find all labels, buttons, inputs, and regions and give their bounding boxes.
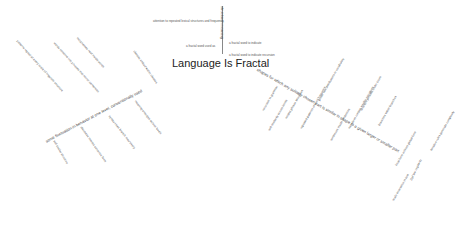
diagram-title: Language Is Fractal xyxy=(172,57,269,69)
left-main-label: some fluctuation in behavior at one leve… xyxy=(45,89,143,144)
left-item: syntax trees branch recursively xyxy=(108,115,136,149)
right-item: branches within branches xyxy=(378,96,398,127)
top-item: attention to repeated lexical structures… xyxy=(153,20,224,23)
top-item: a fractal word to indicate recursion xyxy=(229,54,275,57)
top-item: a fractal word to indicate xyxy=(229,42,262,45)
right-item: recursion in grammar xyxy=(262,85,279,111)
left-item: self similar structure xyxy=(52,140,68,165)
left-item: discourse mirrors sentence form xyxy=(80,126,107,163)
top-item: a fractal word used as xyxy=(186,45,215,48)
left-item: morphemes nest inside words xyxy=(76,37,105,69)
right-item: iterative rules generate complexity xyxy=(430,111,455,152)
left-item: meaning emerges across levels xyxy=(134,100,162,135)
right-item: Zipf law regularity xyxy=(410,159,423,182)
right-item: scale invariance in text xyxy=(392,174,410,202)
left-item: clauses embed within clauses xyxy=(133,50,158,84)
right-item: power law distributions in vocabulary xyxy=(318,58,345,102)
right-item: structure persists under zoom xyxy=(360,76,382,112)
